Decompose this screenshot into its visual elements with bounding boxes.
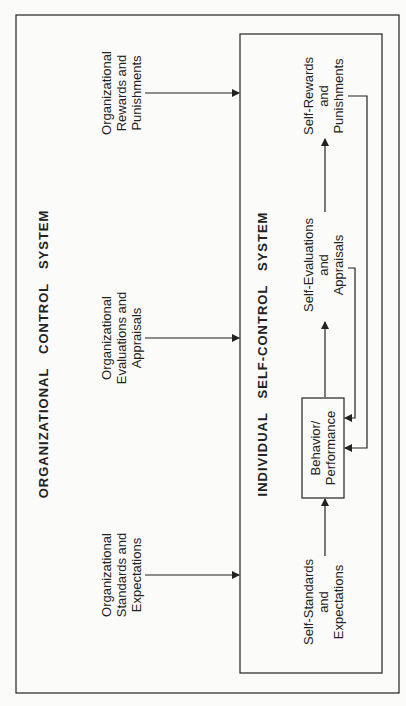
organizational-rewards-label: Organizational Rewards and Punishments xyxy=(99,51,144,135)
behavior-performance-label: Behavior/ Performance xyxy=(308,411,338,485)
self-rewards-label: Self-Rewards and Punishments xyxy=(301,57,346,135)
organizational-control-system-title: ORGANIZATIONAL CONTROL SYSTEM xyxy=(36,210,51,499)
organizational-evaluations-label: Organizational Evaluations and Appraisal… xyxy=(99,292,144,385)
self-evaluations-label: Self-Evaluations and Appraisals xyxy=(301,218,346,312)
individual-self-control-system-title: INDIVIDUAL SELF-CONTROL SYSTEM xyxy=(255,212,270,497)
organizational-standards-label: Organizational Standards and Expectation… xyxy=(99,533,144,618)
self-standards-label: Self-Standards and Expectations xyxy=(301,559,346,645)
